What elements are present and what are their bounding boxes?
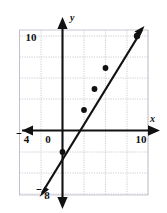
data-point bbox=[103, 65, 109, 71]
data-point bbox=[92, 86, 98, 92]
y-tick-label-neg8: 8 bbox=[44, 189, 50, 201]
coordinate-plane: 10 ⁻ 4 0 10 ⁻ 8 y x bbox=[0, 0, 167, 213]
plotted-line bbox=[40, 26, 145, 197]
data-point bbox=[60, 149, 66, 155]
y-tick-sign-neg8: ⁻ bbox=[36, 185, 42, 197]
data-point bbox=[134, 33, 140, 39]
x-tick-label-neg4: 4 bbox=[24, 133, 30, 145]
data-point bbox=[81, 107, 87, 113]
x-tick-label-origin: 0 bbox=[45, 133, 51, 145]
x-tick-sign-neg4: ⁻ bbox=[16, 129, 22, 141]
y-axis bbox=[57, 17, 67, 209]
y-tick-label-10: 10 bbox=[26, 31, 38, 43]
y-axis-label: y bbox=[69, 12, 75, 23]
x-axis-label: x bbox=[149, 113, 155, 124]
x-tick-label-10: 10 bbox=[136, 133, 148, 145]
graph-figure: 10 ⁻ 4 0 10 ⁻ 8 y x bbox=[0, 0, 167, 213]
